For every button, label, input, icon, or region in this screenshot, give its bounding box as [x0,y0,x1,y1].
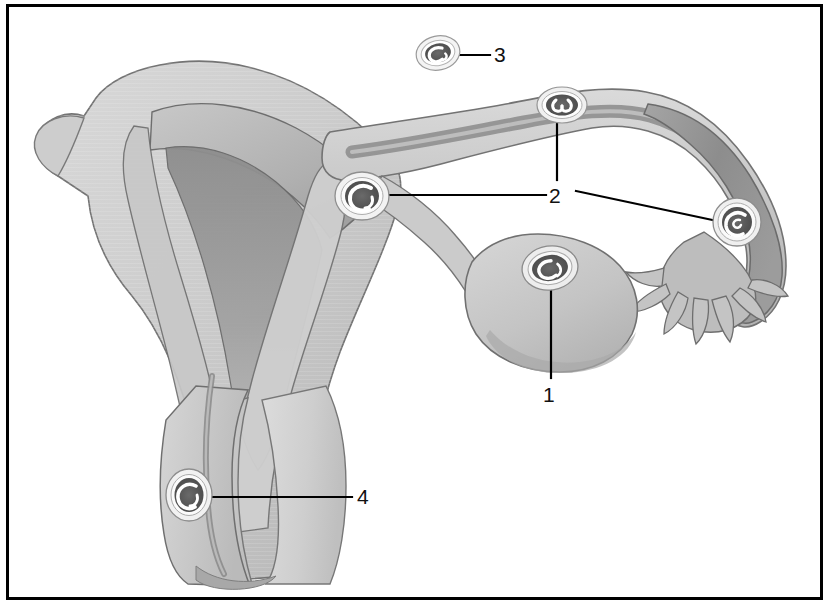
ectopic-pregnancy-figure: 1 2 3 4 [0,0,829,607]
cervical-implantation-marker [166,469,212,521]
ovary-group [366,176,637,373]
ampullary-implantation-marker [713,198,761,246]
label-4: 4 [357,486,369,507]
label-1: 1 [543,384,555,405]
label-2: 2 [549,185,561,206]
mid-tubal-implantation-marker [537,87,587,123]
leader-line-2-ampullary [576,191,722,222]
interstitial-implantation-marker [335,172,389,220]
anatomy-illustration [0,0,829,607]
label-3: 3 [494,44,506,65]
abdominal-free-ovum-marker [413,32,463,74]
